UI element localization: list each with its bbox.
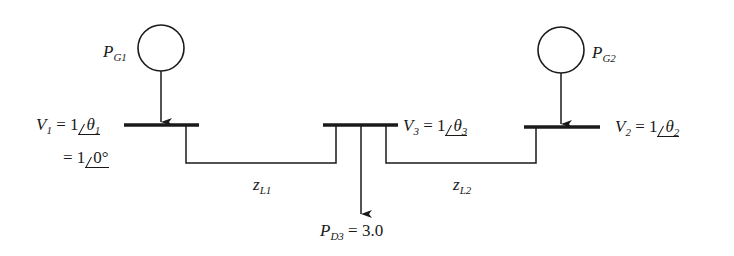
- theta-2-subscript: 2: [674, 126, 680, 138]
- theta-1: θ: [86, 115, 94, 134]
- zl1-subscript: L1: [260, 184, 272, 196]
- load-label: PD3 = 3.0: [320, 222, 383, 239]
- theta-1-subscript: 1: [95, 124, 101, 136]
- bus-3-voltage-label: V3 = 1θ3: [403, 117, 467, 134]
- bus-1-reference-angle: = 10°: [63, 149, 109, 166]
- v1-ref-magnitude: = 1: [63, 148, 85, 167]
- line-l1-impedance-label: zL1: [253, 176, 271, 193]
- pd3-subscript: D3: [330, 230, 343, 242]
- angle-icon: θ3: [445, 117, 467, 134]
- v3-magnitude: = 1: [423, 116, 445, 135]
- generator-1-symbol-text: P: [103, 42, 113, 61]
- theta-3: θ: [453, 116, 461, 135]
- theta-2: θ: [665, 117, 673, 136]
- v2-subscript: 2: [625, 126, 631, 138]
- v1-magnitude: = 1: [56, 115, 78, 134]
- angle-icon: θ1: [78, 116, 100, 133]
- generator-2-label: PG2: [592, 44, 616, 61]
- v2-symbol: V: [615, 117, 625, 136]
- zl1-symbol: z: [253, 175, 260, 194]
- bus-1-voltage-label: V1 = 1θ1: [36, 116, 100, 133]
- v3-symbol: V: [403, 116, 413, 135]
- generator-1-label: PG1: [103, 43, 127, 60]
- generator-2-subscript: G2: [602, 52, 615, 64]
- bus-2-voltage-label: V2 = 1θ2: [615, 118, 679, 135]
- zl2-symbol: z: [453, 175, 460, 194]
- power-system-diagram: PG1 PG2 V1 = 1θ1 = 10° V3 = 1θ3 V2 = 1θ2…: [0, 0, 734, 256]
- v1-symbol: V: [36, 115, 46, 134]
- pd3-value: = 3.0: [348, 221, 383, 240]
- v1-ref-angle: 0°: [93, 148, 108, 167]
- line-l2-impedance-label: zL2: [453, 176, 471, 193]
- zl2-subscript: L2: [460, 184, 472, 196]
- v3-subscript: 3: [413, 125, 419, 137]
- generator-2-symbol: [538, 27, 584, 73]
- v1-subscript: 1: [46, 124, 52, 136]
- generator-1-symbol: [138, 25, 184, 71]
- angle-icon: θ2: [657, 118, 679, 135]
- v2-magnitude: = 1: [635, 117, 657, 136]
- generator-1-subscript: G1: [113, 51, 126, 63]
- theta-3-subscript: 3: [462, 125, 468, 137]
- pd3-symbol: P: [320, 221, 330, 240]
- angle-icon: 0°: [85, 149, 108, 166]
- generator-2-symbol-text: P: [592, 43, 602, 62]
- line-l1: [186, 125, 336, 163]
